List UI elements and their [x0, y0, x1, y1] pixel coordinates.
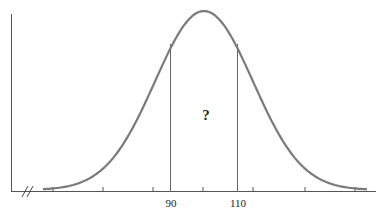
- tick-label-90: 90: [166, 197, 177, 209]
- normal-distribution-diagram: 90 110 ?: [0, 0, 383, 217]
- tick-label-110: 110: [230, 197, 246, 209]
- region-label: ?: [202, 107, 210, 124]
- normal-curve: [43, 11, 367, 189]
